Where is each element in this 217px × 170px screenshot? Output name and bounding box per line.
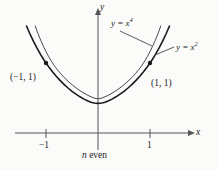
curve-label-y-equals-x4: y = x4 <box>111 19 133 28</box>
x-tick-label-1: 1 <box>147 141 152 151</box>
curve-label-y-equals-x2: y = x2 <box>176 43 198 52</box>
leader-line-x4 <box>120 31 152 46</box>
point-label-1-1: (1, 1) <box>151 79 172 89</box>
figure-caption-text: even <box>87 150 107 160</box>
point-label-neg1-1: (−1, 1) <box>10 73 36 83</box>
curve-label-x4-base: y = x <box>111 18 130 28</box>
point-marker-neg1-1 <box>44 61 48 65</box>
x-tick-label-neg1: −1 <box>39 141 49 151</box>
curve-label-x4-exponent: 4 <box>130 16 133 23</box>
figure-caption: n even <box>82 151 107 161</box>
graph-figure: y x −1 1 y = x4 y = x2 (−1, 1) (1, 1) n … <box>0 0 217 170</box>
curve-label-x2-exponent: 2 <box>195 40 198 47</box>
y-axis <box>95 8 101 150</box>
curve-label-x2-base: y = x <box>176 42 195 52</box>
y-axis-label: y <box>100 3 104 13</box>
x-axis <box>15 129 195 138</box>
graph-canvas <box>0 0 217 170</box>
x-axis-label: x <box>196 128 200 138</box>
point-marker-1-1 <box>148 61 152 65</box>
